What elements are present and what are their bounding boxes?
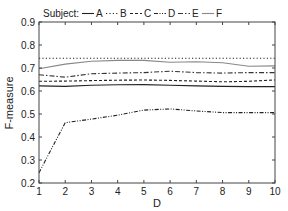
y-tick-label: 0.4 — [21, 132, 35, 143]
y-tick-label: 0.2 — [21, 178, 35, 189]
x-tick-label: 7 — [194, 186, 200, 197]
y-tick-label: 0.5 — [21, 109, 35, 120]
x-tick-label: 3 — [89, 186, 95, 197]
series-line-a — [39, 85, 275, 87]
y-tick-label: 0.9 — [21, 17, 35, 28]
axis-ticks: 123456789100.20.30.40.50.60.70.80.9 — [21, 17, 281, 198]
x-tick-label: 5 — [141, 186, 147, 197]
legend-title: Subject: — [43, 8, 79, 19]
x-tick-label: 8 — [220, 186, 226, 197]
series-line-c — [39, 80, 275, 82]
line-chart: Subject:ABCDEF 123456789100.20.30.40.50.… — [0, 0, 288, 211]
y-tick-label: 0.3 — [21, 155, 35, 166]
series-layer — [39, 58, 275, 172]
x-tick-label: 4 — [115, 186, 121, 197]
legend-label-e: E — [192, 8, 199, 19]
legend-label-f: F — [216, 8, 222, 19]
x-tick-label: 6 — [167, 186, 173, 197]
legend-label-a: A — [96, 8, 103, 19]
y-tick-label: 0.7 — [21, 63, 35, 74]
legend-label-c: C — [144, 8, 151, 19]
plot-frame — [39, 22, 275, 183]
series-line-d — [39, 109, 275, 173]
y-tick-label: 0.6 — [21, 86, 35, 97]
x-tick-label: 10 — [269, 186, 281, 197]
legend: Subject:ABCDEF — [43, 8, 222, 19]
x-axis-label: D — [153, 197, 161, 209]
y-tick-label: 0.8 — [21, 40, 35, 51]
x-tick-label: 9 — [246, 186, 252, 197]
legend-label-b: B — [120, 8, 127, 19]
x-tick-label: 2 — [62, 186, 68, 197]
series-line-e — [39, 71, 275, 77]
series-line-f — [39, 60, 275, 68]
y-axis-label: F-measure — [3, 76, 15, 129]
legend-label-d: D — [168, 8, 175, 19]
x-tick-label: 1 — [36, 186, 42, 197]
